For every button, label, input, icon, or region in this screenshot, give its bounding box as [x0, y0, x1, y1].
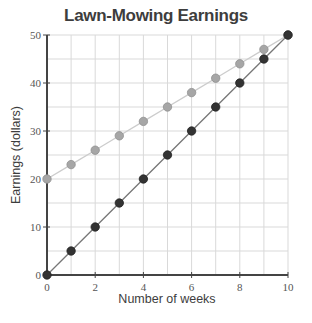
- data-point: [163, 151, 171, 159]
- x-axis-title: Number of weeks: [118, 292, 215, 306]
- y-tick-label: 20: [30, 173, 42, 185]
- data-point: [236, 79, 244, 87]
- data-point: [284, 31, 292, 39]
- data-point: [67, 247, 75, 255]
- data-point: [67, 160, 75, 168]
- data-point: [91, 146, 99, 154]
- data-point: [139, 175, 147, 183]
- data-point: [43, 271, 51, 279]
- x-tick-label: 0: [44, 281, 50, 293]
- data-point: [187, 127, 195, 135]
- y-tick-label: 0: [36, 269, 42, 281]
- data-point: [260, 45, 268, 53]
- y-tick-label: 30: [30, 125, 42, 137]
- data-point: [91, 223, 99, 231]
- data-point: [260, 55, 268, 63]
- data-point: [163, 103, 171, 111]
- data-point: [187, 88, 195, 96]
- y-tick-label: 10: [30, 221, 42, 233]
- x-tick-label: 10: [283, 281, 295, 293]
- data-point: [43, 175, 51, 183]
- data-point: [115, 199, 123, 207]
- y-tick-label: 50: [30, 29, 42, 41]
- data-point: [139, 117, 147, 125]
- x-tick-label: 8: [237, 281, 243, 293]
- y-axis-title: Earnings (dollars): [9, 106, 23, 204]
- x-tick-label: 2: [92, 281, 98, 293]
- data-point: [236, 60, 244, 68]
- line-chart: 024681001020304050 Number of weeks Earni…: [0, 0, 312, 323]
- y-tick-label: 40: [30, 77, 42, 89]
- data-point: [115, 132, 123, 140]
- data-point: [212, 103, 220, 111]
- data-point: [212, 74, 220, 82]
